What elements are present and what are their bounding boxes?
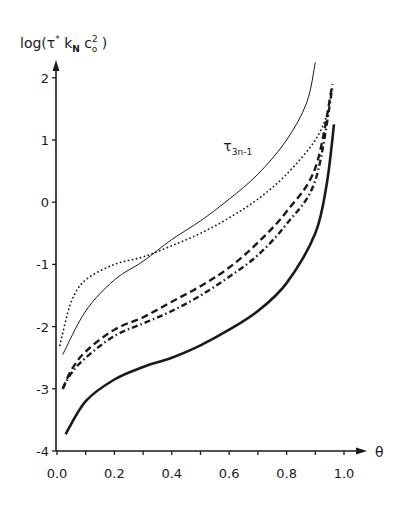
series-annotation: τ3n-1	[223, 138, 252, 157]
x-axis-label: θ	[375, 444, 384, 460]
chart: 210-1-2-3-40.00.20.40.60.81.0θlog(τ* kN …	[0, 0, 403, 511]
axes	[52, 60, 367, 455]
y-tick-label: -1	[36, 257, 49, 272]
x-tick-label: 0.2	[104, 466, 125, 481]
series-group	[60, 62, 334, 434]
y-tick-label: -2	[36, 320, 49, 335]
series-dashed	[63, 84, 333, 389]
x-tick-label: 0.8	[276, 466, 297, 481]
series-dotted	[60, 109, 330, 345]
x-tick-label: 0.0	[47, 466, 68, 481]
x-tick-label: 1.0	[334, 466, 355, 481]
y-tick-label: 1	[41, 133, 49, 148]
y-tick-label: 2	[41, 71, 49, 86]
y-tick-label: 0	[41, 195, 49, 210]
y-tick-label: -3	[36, 382, 49, 397]
x-tick-label: 0.6	[219, 466, 240, 481]
y-tick-label: -4	[36, 444, 49, 459]
y-axis-arrow-icon	[53, 60, 60, 71]
x-tick-label: 0.4	[161, 466, 182, 481]
series-thick-solid	[66, 124, 334, 434]
series-thin-solid	[63, 62, 316, 354]
y-axis-label: log(τ* kN c2o )	[20, 34, 107, 54]
x-axis-arrow-icon	[356, 448, 367, 455]
